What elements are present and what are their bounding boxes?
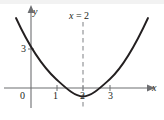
- x-axis-label: x: [152, 83, 156, 93]
- equation-variable: x: [69, 10, 73, 21]
- parabola-curve: [16, 18, 148, 97]
- graph-figure: x y 3 0 1 2 3 x=2: [0, 0, 164, 120]
- equation-equals-sign: =: [76, 10, 82, 21]
- equation-annotation: x=2: [69, 11, 89, 21]
- x-tick-label-0: 0: [20, 91, 25, 101]
- x-tick-label-2: 2: [80, 91, 85, 101]
- equation-value: 2: [84, 10, 89, 21]
- y-tick-label-3: 3: [21, 44, 26, 54]
- x-tick-label-1: 1: [53, 91, 58, 101]
- y-axis: [28, 5, 35, 108]
- x-tick-label-3: 3: [108, 91, 113, 101]
- y-axis-label: y: [33, 7, 37, 17]
